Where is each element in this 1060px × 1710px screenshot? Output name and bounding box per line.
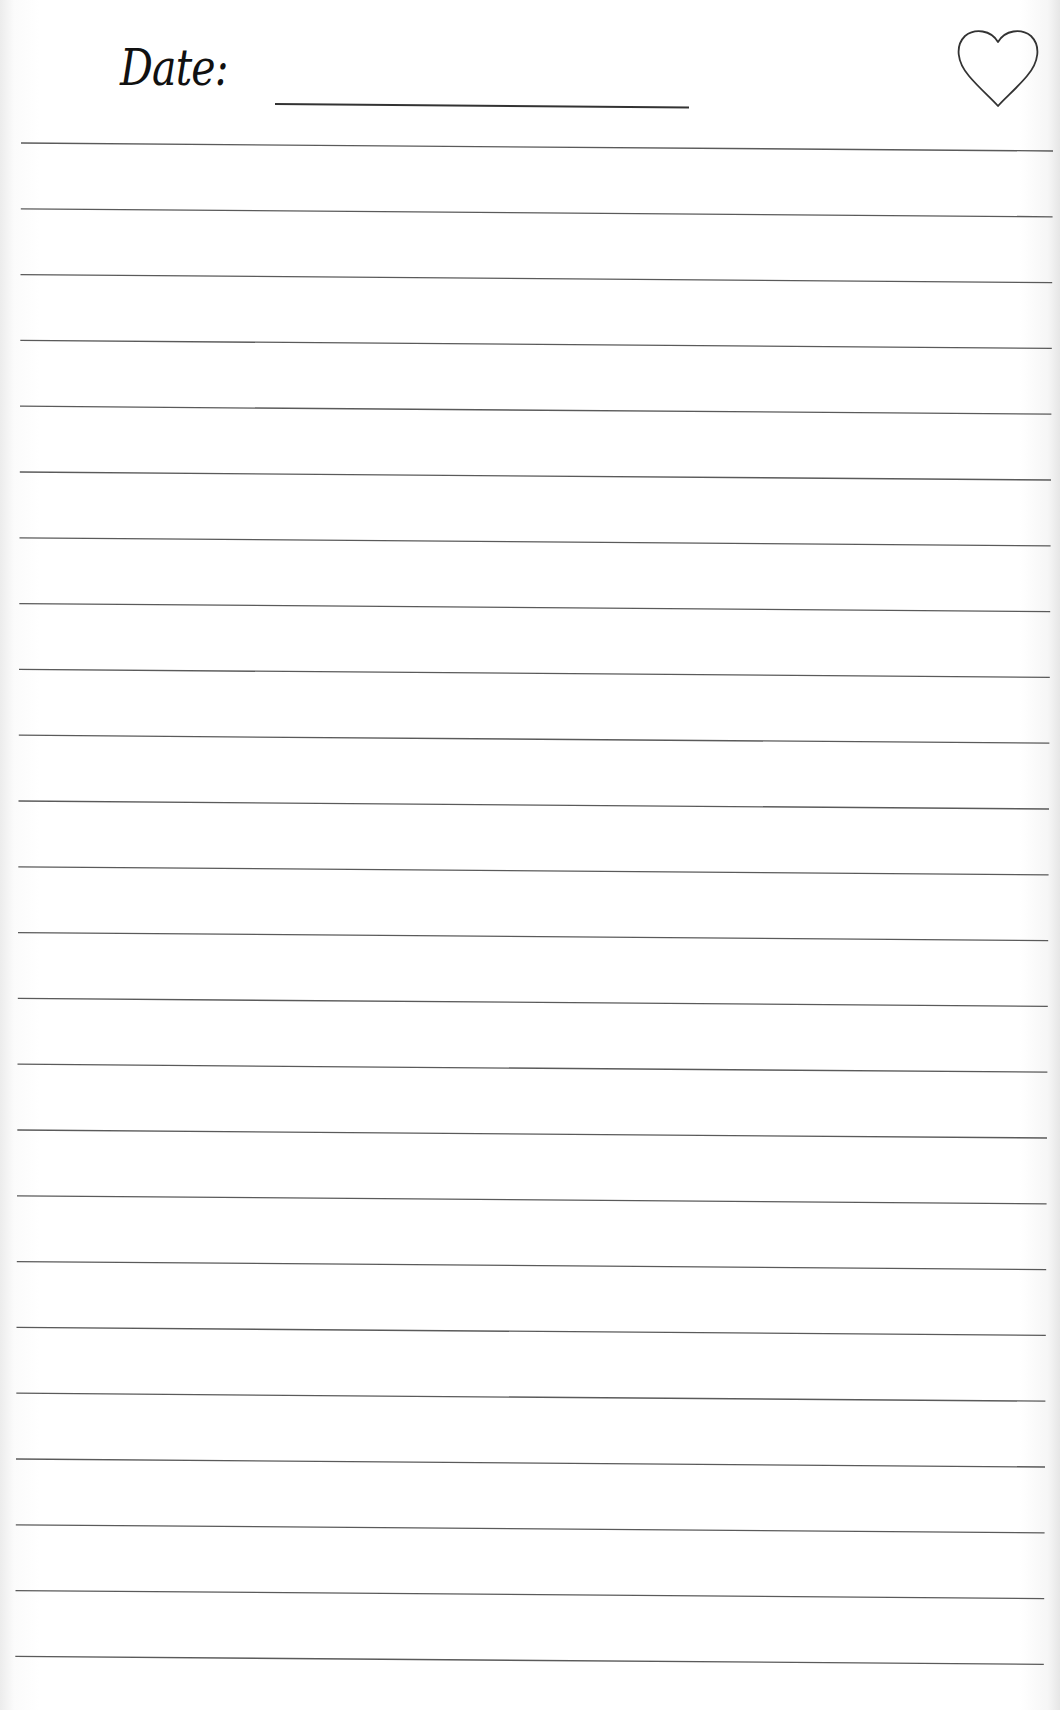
writing-line (21, 143, 1053, 151)
writing-line (19, 735, 1050, 743)
writing-line (20, 472, 1051, 480)
writing-line (20, 538, 1051, 546)
writing-line (15, 1656, 1044, 1664)
writing-line (21, 209, 1053, 217)
writing-line (17, 1327, 1046, 1335)
writing-line (20, 406, 1051, 414)
writing-line (16, 1591, 1045, 1599)
ruled-lines (0, 0, 1060, 1710)
writing-line (19, 604, 1050, 612)
writing-line (16, 1393, 1045, 1401)
writing-line (18, 933, 1048, 941)
writing-line (21, 275, 1053, 283)
writing-line (18, 867, 1048, 875)
writing-line (18, 1064, 1048, 1072)
journal-page: Date: (0, 0, 1060, 1710)
writing-line (16, 1459, 1045, 1467)
writing-line (17, 1262, 1046, 1270)
writing-line (16, 1525, 1045, 1533)
writing-line (20, 340, 1052, 348)
writing-line (17, 1196, 1047, 1204)
writing-line (19, 801, 1050, 809)
writing-line (17, 1130, 1047, 1138)
writing-line (18, 998, 1048, 1006)
writing-line (19, 669, 1050, 677)
